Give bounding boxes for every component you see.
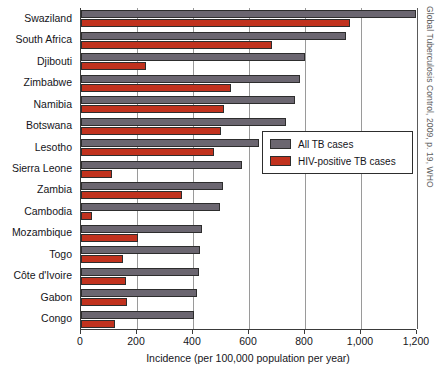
bar-all-tb [81,32,346,40]
category-label: Namibia [33,99,72,110]
bar-all-tb [81,161,242,169]
category-label: Gabon [40,292,72,303]
x-tick-label: 1,000 [347,335,373,347]
category-label: Swaziland [24,13,72,24]
x-tick-label: 0 [77,335,83,347]
bar-group [81,75,416,92]
legend-item-hiv-positive-tb: HIV-positive TB cases [270,154,406,168]
bar-hiv-positive-tb [81,212,92,220]
bar-all-tb [81,268,199,276]
legend-swatch-hiv-positive-tb [270,156,291,166]
bar-group [81,96,416,113]
bar-hiv-positive-tb [81,105,224,113]
bar-group [81,203,416,220]
category-label: Togo [49,249,72,260]
bar-all-tb [81,225,202,233]
x-tick-mark [248,330,249,334]
bar-hiv-positive-tb [81,320,115,328]
bar-group [81,289,416,306]
bar-group [81,225,416,242]
bar-group [81,311,416,328]
category-label: Cambodia [24,206,72,217]
source-credit: Global Tuberculosis Control, 2009, p. 19… [423,6,437,206]
legend-label-hiv-positive-tb: HIV-positive TB cases [298,156,396,167]
bar-all-tb [81,289,197,297]
bar-all-tb [81,311,194,319]
bar-hiv-positive-tb [81,170,112,178]
bar-group [81,246,416,263]
x-tick-label: 800 [295,335,313,347]
bar-group [81,10,416,27]
x-tick-label: 200 [127,335,145,347]
bar-hiv-positive-tb [81,19,350,27]
x-tick-mark [360,330,361,334]
x-axis-title: Incidence (per 100,000 population per ye… [80,352,416,364]
source-credit-text: Global Tuberculosis Control, 2009, p. 19… [425,6,435,188]
chart-legend: All TB cases HIV-positive TB cases [262,131,413,174]
category-label: South Africa [15,34,72,45]
bar-all-tb [81,246,200,254]
category-label: Sierra Leone [12,163,72,174]
category-label: Zimbabwe [24,77,72,88]
bar-hiv-positive-tb [81,234,138,242]
bar-hiv-positive-tb [81,298,127,306]
category-axis: SwazilandSouth AfricaDjiboutiZimbabweNam… [0,8,76,330]
bar-hiv-positive-tb [81,127,221,135]
x-tick-label: 1,200 [403,335,429,347]
x-tick-mark [80,330,81,334]
bar-all-tb [81,10,416,18]
bar-group [81,182,416,199]
bar-all-tb [81,75,300,83]
bar-all-tb [81,118,286,126]
bar-hiv-positive-tb [81,41,272,49]
x-tick-mark [416,330,417,334]
bar-group [81,53,416,70]
bar-hiv-positive-tb [81,84,231,92]
category-label: Djibouti [37,56,72,67]
gridline-1200 [417,8,418,329]
x-tick-mark [192,330,193,334]
legend-swatch-all-tb [270,139,291,149]
tb-incidence-bar-chart: SwazilandSouth AfricaDjiboutiZimbabweNam… [0,0,439,378]
category-label: Botswana [26,120,72,131]
x-tick-label: 400 [183,335,201,347]
bar-hiv-positive-tb [81,191,182,199]
legend-label-all-tb: All TB cases [298,139,353,150]
legend-item-all-tb: All TB cases [270,137,406,151]
bar-all-tb [81,182,223,190]
category-label: Côte d'Ivoire [13,270,72,281]
x-axis: 02004006008001,0001,200 [80,330,416,350]
x-tick-mark [304,330,305,334]
x-tick-label: 600 [239,335,257,347]
bar-group [81,268,416,285]
bar-all-tb [81,203,220,211]
bar-all-tb [81,53,305,61]
bar-hiv-positive-tb [81,62,146,70]
category-label: Mozambique [12,227,72,238]
x-tick-mark [136,330,137,334]
bar-all-tb [81,96,295,104]
bar-group [81,32,416,49]
category-label: Zambia [37,184,72,195]
category-label: Congo [41,313,72,324]
category-label: Lesotho [35,142,72,153]
bar-all-tb [81,139,259,147]
bar-hiv-positive-tb [81,148,214,156]
bar-hiv-positive-tb [81,277,126,285]
bar-hiv-positive-tb [81,255,123,263]
